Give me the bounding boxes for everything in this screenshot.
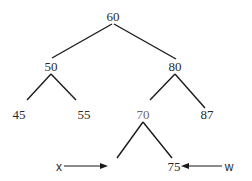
node-root: 60 xyxy=(107,9,120,24)
edge-70-75 xyxy=(143,122,172,158)
node-45: 45 xyxy=(13,107,26,122)
nodes: 60 50 80 45 55 70 87 75 xyxy=(13,9,215,174)
tree-diagram: 60 50 80 45 55 70 87 75 x w xyxy=(0,0,252,181)
edge-60-50 xyxy=(52,24,112,58)
node-75: 75 xyxy=(168,159,181,174)
node-70: 70 xyxy=(137,107,150,122)
pointer-w-label: w xyxy=(224,160,234,174)
pointer-x-label: x xyxy=(56,160,62,174)
pointer-x: x xyxy=(56,160,108,174)
node-55: 55 xyxy=(78,107,91,122)
edges xyxy=(27,24,205,158)
arrow-x-head-icon xyxy=(100,163,108,169)
edge-80-70 xyxy=(150,74,175,100)
node-50: 50 xyxy=(45,59,58,74)
edge-50-45 xyxy=(27,74,51,100)
edge-60-80 xyxy=(114,24,176,59)
edge-70-empty xyxy=(117,122,143,158)
arrow-w-head-icon xyxy=(181,163,189,169)
edge-80-87 xyxy=(175,74,205,108)
node-87: 87 xyxy=(201,107,215,122)
node-80: 80 xyxy=(169,59,182,74)
pointer-w: w xyxy=(181,160,234,174)
edge-50-55 xyxy=(51,74,76,100)
